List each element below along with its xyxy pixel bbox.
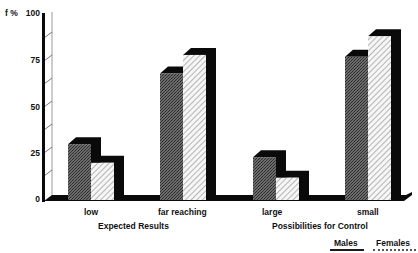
y-tick-75: 75 xyxy=(18,55,40,65)
bar-large-females xyxy=(276,171,309,200)
x-label-low: low xyxy=(84,207,98,217)
bar-small-females xyxy=(368,29,401,200)
legend-females-swatch xyxy=(373,249,416,251)
y-tick-100: 100 xyxy=(18,8,40,18)
x-label-small: small xyxy=(357,207,379,217)
y-tick-50: 50 xyxy=(18,102,40,112)
bars xyxy=(68,29,401,200)
group-title-possibilities-for-control: Possibilities for Control xyxy=(272,221,368,231)
bar-far-reaching-females xyxy=(183,48,216,200)
legend-males: Males xyxy=(334,238,358,248)
y-axis xyxy=(42,13,45,202)
x-label-far-reaching: far reaching xyxy=(158,207,207,217)
legend-females: Females xyxy=(376,238,410,248)
chart-canvas xyxy=(0,0,418,253)
legend-males-swatch xyxy=(330,249,364,251)
y-axis-label: f % xyxy=(5,8,18,18)
bar-chart: f % 100 75 50 25 0 low far reaching larg… xyxy=(0,0,418,253)
bar-low-females xyxy=(91,156,124,200)
y-tick-0: 0 xyxy=(18,194,40,204)
y-axis-back xyxy=(44,12,52,196)
x-label-large: large xyxy=(262,207,282,217)
group-title-expected-results: Expected Results xyxy=(98,221,169,231)
y-tick-25: 25 xyxy=(18,148,40,158)
